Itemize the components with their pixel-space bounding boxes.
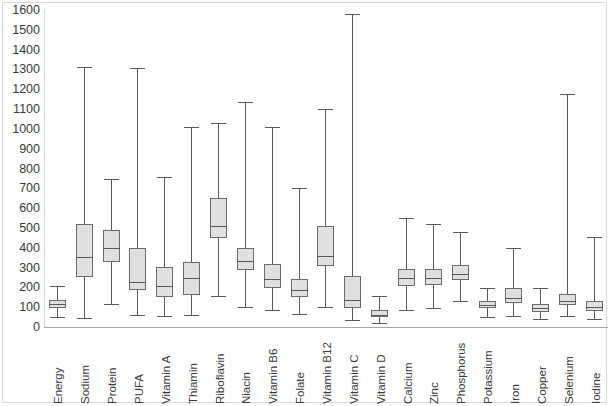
iqr-box — [156, 267, 173, 298]
x-axis-tick-label: Phosphorus — [456, 343, 468, 404]
box-plot-protein — [98, 10, 125, 327]
lower-whisker — [84, 277, 85, 318]
median-line — [586, 307, 603, 308]
box-plot-vitamin-b12 — [313, 10, 340, 327]
upper-whisker-cap — [130, 68, 145, 69]
median-line — [505, 298, 522, 299]
upper-whisker-cap — [345, 14, 360, 15]
box-plot-iron — [501, 10, 528, 327]
upper-whisker — [433, 224, 434, 269]
upper-whisker-cap — [426, 224, 441, 225]
lower-whisker — [594, 311, 595, 319]
upper-whisker — [325, 109, 326, 226]
box-plot-iodine — [581, 10, 608, 327]
box-plot-zinc — [420, 10, 447, 327]
lower-whisker-cap — [77, 318, 92, 319]
upper-whisker — [218, 123, 219, 198]
y-axis-tick-label: 300 — [0, 261, 40, 274]
lower-whisker — [352, 308, 353, 320]
upper-whisker-cap — [453, 232, 468, 233]
box-plot-pufa — [125, 10, 152, 327]
lower-whisker-cap — [157, 316, 172, 317]
x-axis-tick-label: Copper — [537, 366, 549, 404]
iqr-box — [103, 230, 120, 262]
upper-whisker-cap — [238, 102, 253, 103]
lower-whisker — [406, 286, 407, 310]
iqr-box — [586, 301, 603, 311]
x-axis-tick-label: Niacin — [241, 372, 253, 404]
lower-whisker-cap — [533, 319, 548, 320]
iqr-box — [452, 265, 469, 281]
y-axis-tick-label: 600 — [0, 202, 40, 215]
y-axis-tick-label: 700 — [0, 182, 40, 195]
median-line — [532, 308, 549, 309]
lower-whisker-cap — [345, 320, 360, 321]
lower-whisker — [218, 238, 219, 296]
box-plot-chart: 0100200300400500600700800900100011001200… — [0, 0, 610, 406]
lower-whisker-cap — [399, 310, 414, 311]
lower-whisker — [487, 308, 488, 317]
x-axis-tick-label: Selenium — [564, 356, 576, 404]
upper-whisker-cap — [480, 288, 495, 289]
upper-whisker-cap — [292, 188, 307, 189]
x-axis-labels: EnergySodiumProteinPUFAVitamin AThiaminR… — [44, 330, 610, 406]
lower-whisker — [57, 308, 58, 317]
lower-whisker-cap — [130, 315, 145, 316]
lower-whisker — [111, 262, 112, 305]
y-axis-ticks: 0100200300400500600700800900100011001200… — [0, 0, 44, 406]
median-line — [317, 256, 334, 257]
median-line — [264, 279, 281, 280]
iqr-box — [76, 224, 93, 277]
upper-whisker — [164, 177, 165, 266]
x-axis-tick-label: Thiamin — [188, 363, 200, 404]
upper-whisker — [487, 288, 488, 301]
lower-whisker-cap — [587, 319, 602, 320]
x-axis-tick-label: Folate — [295, 372, 307, 404]
median-line — [344, 300, 361, 301]
upper-whisker-cap — [50, 286, 65, 287]
y-axis-tick-label: 0 — [0, 321, 40, 334]
y-axis-tick-label: 200 — [0, 281, 40, 294]
upper-whisker-cap — [77, 67, 92, 68]
x-axis-tick-label: Vitamin A — [161, 356, 173, 404]
lower-whisker-cap — [292, 314, 307, 315]
upper-whisker — [84, 67, 85, 224]
lower-whisker-cap — [426, 308, 441, 309]
y-axis-tick-label: 900 — [0, 142, 40, 155]
upper-whisker-cap — [211, 123, 226, 124]
x-axis-line — [44, 327, 608, 328]
iqr-box — [317, 226, 334, 266]
upper-whisker-cap — [318, 109, 333, 110]
lower-whisker-cap — [560, 316, 575, 317]
iqr-box — [344, 276, 361, 308]
box-plot-potassium — [474, 10, 501, 327]
upper-whisker-cap — [184, 127, 199, 128]
x-axis-tick-label: Vitamin C — [349, 354, 361, 404]
upper-whisker-cap — [533, 288, 548, 289]
x-axis-tick-label: Sodium — [80, 365, 92, 404]
lower-whisker-cap — [211, 296, 226, 297]
upper-whisker — [137, 68, 138, 247]
lower-whisker-cap — [184, 315, 199, 316]
upper-whisker — [57, 286, 58, 300]
upper-whisker-cap — [560, 94, 575, 95]
lower-whisker-cap — [265, 310, 280, 311]
upper-whisker — [540, 288, 541, 304]
upper-whisker — [111, 179, 112, 230]
median-line — [371, 315, 388, 316]
upper-whisker — [567, 94, 568, 294]
box-plot-riboflavin — [205, 10, 232, 327]
upper-whisker — [352, 14, 353, 277]
y-axis-tick-label: 100 — [0, 301, 40, 314]
upper-whisker-cap — [157, 177, 172, 178]
upper-whisker — [406, 218, 407, 269]
median-line — [49, 304, 66, 305]
median-line — [559, 301, 576, 302]
x-axis-tick-label: Zinc — [429, 382, 441, 404]
y-axis-tick-label: 1600 — [0, 4, 40, 17]
y-axis-tick-label: 1100 — [0, 103, 40, 116]
iqr-box — [210, 198, 227, 238]
box-plot-selenium — [554, 10, 581, 327]
y-axis-tick-label: 1200 — [0, 83, 40, 96]
median-line — [129, 282, 146, 283]
